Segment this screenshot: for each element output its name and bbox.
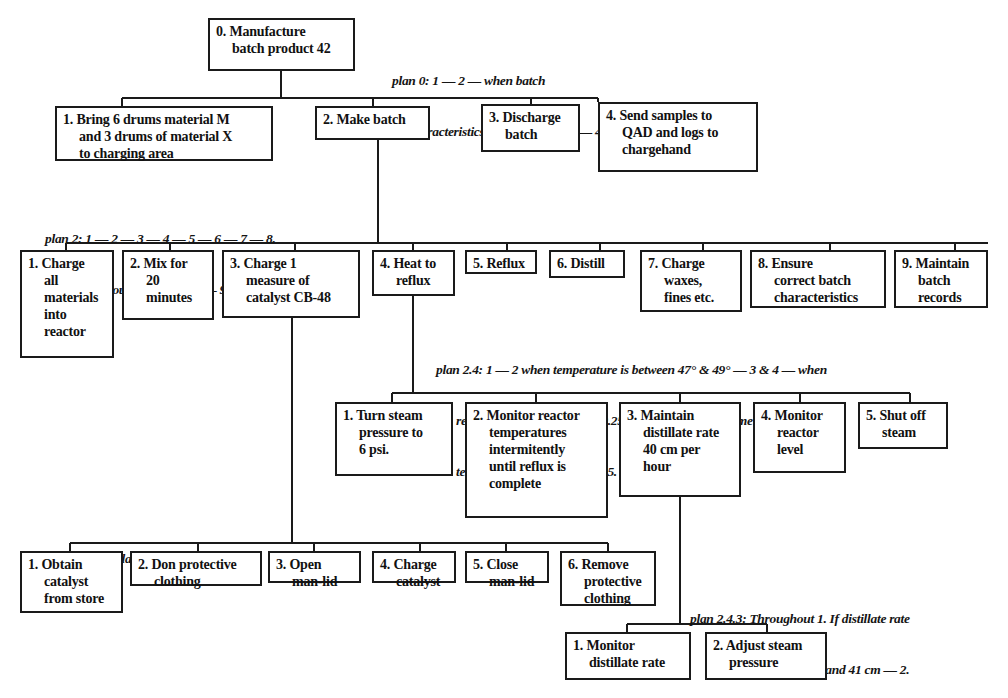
task-2-4-3-maintain-distillate: 3. Maintain distillate rate 40 cm per ho… — [619, 402, 741, 497]
task-2-3-3-open-man-lid: 3. Open man-lid — [268, 551, 361, 583]
task-2-3-6-remove-clothing: 6. Remove protective clothing — [560, 551, 656, 606]
task-2-1-charge-materials: 1. Charge all materials into reactor — [20, 250, 114, 358]
hta-diagram: 0. Manufacture batch product 42 plan 0: … — [0, 0, 1008, 698]
task-2-4-2-monitor-temperatures: 2. Monitor reactor temperatures intermit… — [465, 402, 608, 518]
task-2-6-distill: 6. Distill — [549, 250, 625, 278]
task-2-7-charge-waxes: 7. Charge waxes, fines etc. — [640, 250, 742, 312]
task-2-4-heat-to-reflux: 4. Heat to reflux — [372, 250, 455, 296]
task-2-make-batch: 2. Make batch — [315, 106, 430, 140]
task-0-manufacture-batch: 0. Manufacture batch product 42 — [208, 18, 355, 71]
task-2-3-1-obtain-catalyst: 1. Obtain catalyst from store — [20, 551, 123, 613]
task-2-2-mix: 2. Mix for 20 minutes — [122, 250, 214, 320]
task-2-8-ensure-characteristics: 8. Ensure correct batch characteristics — [750, 250, 886, 308]
task-2-4-3-1-monitor-distillate: 1. Monitor distillate rate — [565, 632, 691, 680]
task-2-3-charge-catalyst: 3. Charge 1 measure of catalyst CB-48 — [222, 250, 360, 318]
task-2-9-maintain-records: 9. Maintain batch records — [894, 250, 988, 308]
task-2-4-4-monitor-level: 4. Monitor reactor level — [753, 402, 846, 473]
task-2-3-4-charge-catalyst: 4. Charge catalyst — [372, 551, 456, 583]
task-2-4-1-turn-steam: 1. Turn steam pressure to 6 psi. — [335, 402, 453, 476]
task-2-3-5-close-man-lid: 5. Close man-lid — [465, 551, 549, 583]
task-4-send-samples: 4. Send samples to QAD and logs to charg… — [598, 102, 758, 172]
task-2-5-reflux: 5. Reflux — [465, 250, 537, 274]
task-2-4-5-shut-off-steam: 5. Shut off steam — [858, 402, 948, 449]
task-2-3-2-don-clothing: 2. Don protective clothing — [130, 551, 262, 586]
task-2-4-3-2-adjust-steam: 2. Adjust steam pressure — [705, 632, 827, 680]
task-1-bring-drums: 1. Bring 6 drums material M and 3 drums … — [55, 106, 273, 161]
task-3-discharge-batch: 3. Discharge batch — [481, 104, 580, 152]
